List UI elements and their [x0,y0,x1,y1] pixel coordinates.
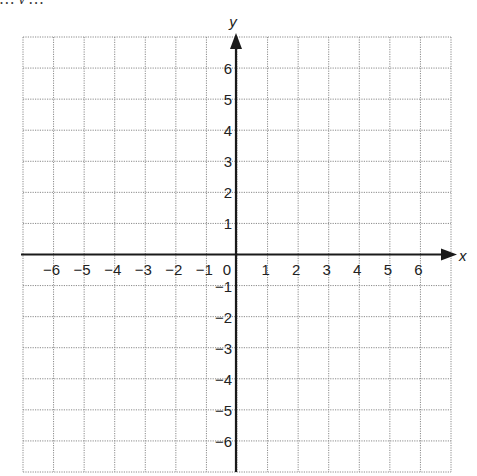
x-tick-label: −5 [74,261,91,278]
x-tick-label: −4 [104,261,121,278]
y-tick-label: 1 [224,215,232,232]
y-axis-label: y [228,13,238,30]
x-tick-label: 3 [323,261,331,278]
y-tick-label: −5 [215,402,232,419]
y-tick-label: −4 [215,371,232,388]
y-axis-arrow-icon [230,33,242,49]
y-tick-label: 4 [224,122,232,139]
y-tick-label: −1 [215,278,232,295]
x-tick-label: −2 [165,261,182,278]
x-axis-label: x [458,247,467,264]
x-tick-label: −1 [196,261,213,278]
y-tick-label: 6 [224,60,232,77]
y-tick-label: −2 [215,309,232,326]
tick-labels: xy−6−5−4−3−2−10123456654321−1−2−3−4−5−6 [43,13,467,450]
y-tick-label: 5 [224,91,232,108]
y-tick-label: −3 [215,340,232,357]
x-tick-label: 0 [223,261,231,278]
x-tick-label: −3 [135,261,152,278]
x-tick-label: 5 [384,261,392,278]
coordinate-grid-diagram: xy−6−5−4−3−2−10123456654321−1−2−3−4−5−6 [0,0,477,476]
y-tick-label: 3 [224,153,232,170]
coordinate-plane: xy−6−5−4−3−2−10123456654321−1−2−3−4−5−6 [0,0,477,476]
y-tick-label: 2 [224,184,232,201]
x-tick-label: 1 [261,261,269,278]
x-axis-arrow-icon [441,249,457,261]
x-tick-label: 6 [414,261,422,278]
x-tick-label: 2 [292,261,300,278]
x-tick-label: −6 [43,261,60,278]
y-tick-label: −6 [215,433,232,450]
x-tick-label: 4 [353,261,361,278]
